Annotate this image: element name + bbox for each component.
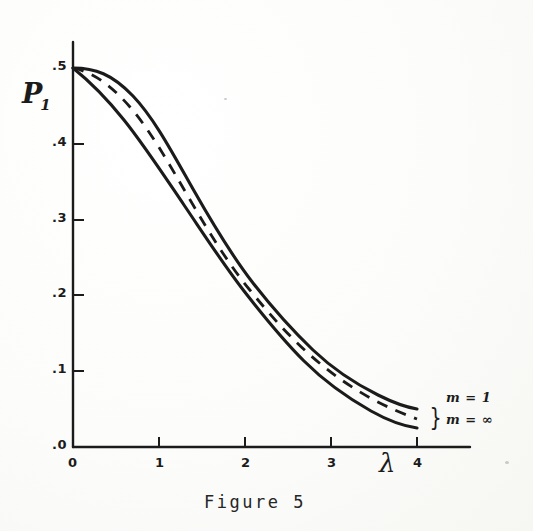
y-axis-label: P1 [22, 78, 53, 109]
x-tick-label-1: 1 [155, 455, 165, 470]
plot-canvas [0, 0, 533, 531]
figure-caption: Figure 5 [204, 492, 306, 512]
x-tick-label-4: 4 [413, 455, 423, 470]
x-tick-label-3: 3 [327, 455, 337, 470]
y-tick-label-2: .3 [52, 210, 67, 225]
y-axis-ticks [73, 68, 84, 371]
y-tick-label-4: .1 [52, 361, 67, 376]
figure-page: .5 .4 .3 .2 .1 .0 0 1 2 3 4 P1 λ m = 1 }… [0, 0, 533, 531]
scan-speck [224, 98, 227, 100]
series-label-m-1: m = 1 [446, 390, 491, 405]
y-tick-label-3: .2 [52, 285, 67, 300]
x-tick-label-0: 0 [68, 455, 78, 470]
scan-speck [505, 461, 509, 464]
x-axis-ticks [159, 437, 417, 447]
y-tick-label-0: .5 [52, 58, 67, 73]
y-axis-label-subscript: 1 [40, 96, 50, 114]
series-label-m-infinity: m = ∞ [446, 412, 493, 427]
curve-m-infinity [73, 68, 417, 428]
x-axis-label: λ [379, 448, 395, 478]
x-tick-label-2: 2 [241, 455, 251, 470]
y-tick-label-5: .0 [52, 437, 67, 452]
legend-brace: } [430, 404, 442, 432]
y-tick-label-1: .4 [52, 134, 67, 149]
